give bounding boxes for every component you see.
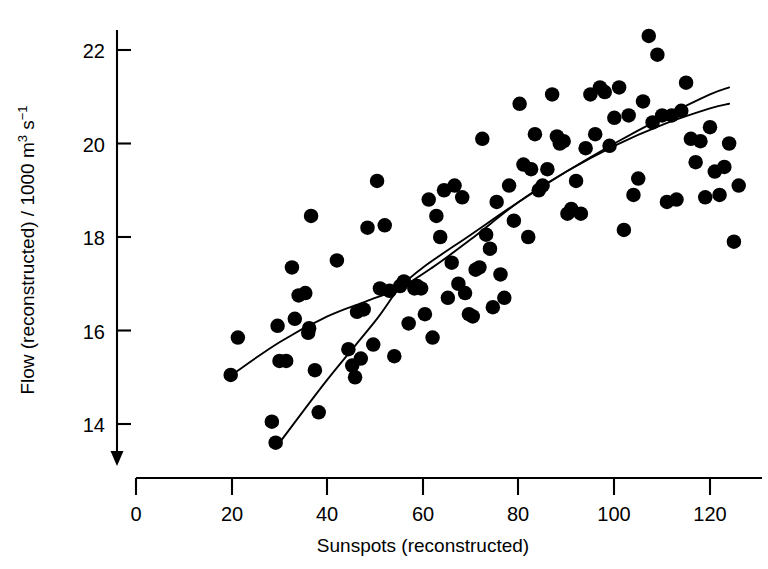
data-point — [387, 349, 402, 364]
data-point — [304, 209, 319, 224]
data-point — [285, 260, 300, 275]
data-point — [698, 190, 713, 205]
data-point — [512, 97, 527, 112]
data-point — [712, 188, 727, 203]
y-tick-label: 14 — [83, 414, 105, 436]
data-point — [642, 29, 657, 44]
data-point — [688, 155, 703, 170]
data-point — [441, 291, 456, 306]
data-point — [354, 351, 369, 366]
data-point — [311, 405, 326, 420]
data-point — [414, 281, 429, 296]
data-point — [421, 192, 436, 207]
data-point — [528, 127, 543, 142]
data-point — [418, 307, 433, 322]
x-axis-title: Sunspots (reconstructed) — [317, 535, 529, 556]
data-point — [429, 209, 444, 224]
y-axis-title-sup-inverse: −1 — [15, 105, 30, 120]
data-point — [479, 227, 494, 242]
y-ticks-group: 22 20 18 16 14 — [83, 40, 131, 436]
x-tick-label: 120 — [693, 503, 726, 525]
data-point — [669, 192, 684, 207]
data-point — [578, 141, 593, 156]
data-point — [521, 230, 536, 245]
data-point — [366, 337, 381, 352]
data-point — [348, 370, 363, 385]
data-point — [472, 260, 487, 275]
y-axis-title: Flow (reconstructed) / 1000 m3 s−1 — [15, 105, 38, 394]
data-point — [569, 174, 584, 189]
x-tick-label: 40 — [316, 503, 338, 525]
data-point — [524, 162, 539, 177]
data-point — [502, 178, 516, 193]
data-point — [455, 190, 470, 205]
data-point — [401, 316, 416, 331]
data-point — [483, 241, 498, 256]
data-point — [489, 195, 504, 210]
data-point — [288, 312, 303, 327]
data-point — [621, 108, 636, 123]
data-point — [279, 354, 294, 369]
data-point — [330, 253, 345, 268]
data-point — [626, 188, 641, 203]
x-tick-label: 0 — [130, 503, 141, 525]
x-tick-label: 20 — [221, 503, 243, 525]
scatter-plot: 22 20 18 16 14 0 20 40 60 80 100 120 Sun… — [0, 0, 768, 569]
y-tick-label: 18 — [83, 227, 105, 249]
data-point — [598, 85, 613, 100]
data-point — [270, 319, 285, 334]
data-point — [298, 286, 313, 301]
y-axis-title-mid: s — [17, 120, 38, 135]
data-point — [727, 234, 742, 249]
data-point — [540, 162, 555, 177]
data-point — [612, 80, 627, 95]
data-point — [717, 160, 732, 175]
data-point — [722, 136, 737, 151]
data-point — [360, 220, 375, 235]
data-point — [507, 213, 522, 228]
x-tick-label: 100 — [597, 503, 630, 525]
x-ticks-group: 0 20 40 60 80 100 120 — [130, 478, 726, 525]
y-axis-arrow-icon — [111, 451, 124, 466]
data-point — [703, 120, 718, 135]
data-points-layer — [223, 29, 745, 450]
data-point — [556, 134, 571, 149]
y-tick-label: 20 — [83, 134, 105, 156]
data-point — [631, 171, 646, 186]
data-point — [308, 363, 323, 378]
data-point — [693, 134, 708, 149]
y-tick-label: 22 — [83, 40, 105, 62]
y-axis-title-main: Flow (reconstructed) / 1000 m — [17, 142, 38, 394]
data-point — [493, 267, 508, 282]
axes-group — [111, 30, 763, 478]
data-point — [650, 47, 665, 62]
data-point — [545, 87, 560, 102]
data-point — [231, 330, 246, 345]
fit-curve-regression-fit — [280, 87, 730, 442]
data-point — [617, 223, 632, 238]
x-tick-label: 80 — [507, 503, 529, 525]
data-point — [497, 291, 512, 306]
data-point — [574, 206, 589, 221]
y-axis-title-sup-cubic: 3 — [15, 135, 30, 142]
data-point — [425, 330, 440, 345]
data-point — [268, 435, 283, 450]
data-point — [458, 286, 473, 301]
data-point — [636, 94, 651, 109]
data-point — [588, 127, 603, 142]
data-point — [466, 309, 481, 324]
data-point — [731, 178, 746, 193]
data-point — [265, 414, 280, 429]
chart-figure: 22 20 18 16 14 0 20 40 60 80 100 120 Sun… — [0, 0, 768, 569]
y-tick-label: 16 — [83, 321, 105, 343]
data-point — [607, 111, 622, 126]
data-point — [370, 174, 385, 189]
data-point — [475, 132, 490, 147]
data-point — [433, 230, 448, 245]
data-point — [486, 300, 501, 315]
x-tick-label: 60 — [412, 503, 434, 525]
data-point — [679, 75, 694, 90]
data-point — [377, 218, 392, 233]
data-point — [223, 368, 238, 383]
